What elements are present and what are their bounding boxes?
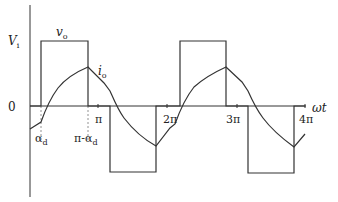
pi-minus-alpha-label: π-αd — [74, 132, 98, 147]
vi-label: Vi — [8, 34, 20, 50]
tick-label-3pi: 3π — [226, 113, 240, 126]
waveform-diagram: 0 Vi vo io αd π-αd π 2π 3π 4π ωt — [0, 0, 338, 202]
x-axis-label: ωt — [312, 101, 327, 115]
zero-label: 0 — [8, 100, 16, 114]
tick-label-pi: π — [95, 113, 102, 126]
vo-label: vo — [56, 25, 68, 41]
tick-label-2pi: 2π — [163, 113, 177, 126]
io-label: io — [98, 64, 107, 80]
alpha-d-label: αd — [35, 132, 48, 147]
